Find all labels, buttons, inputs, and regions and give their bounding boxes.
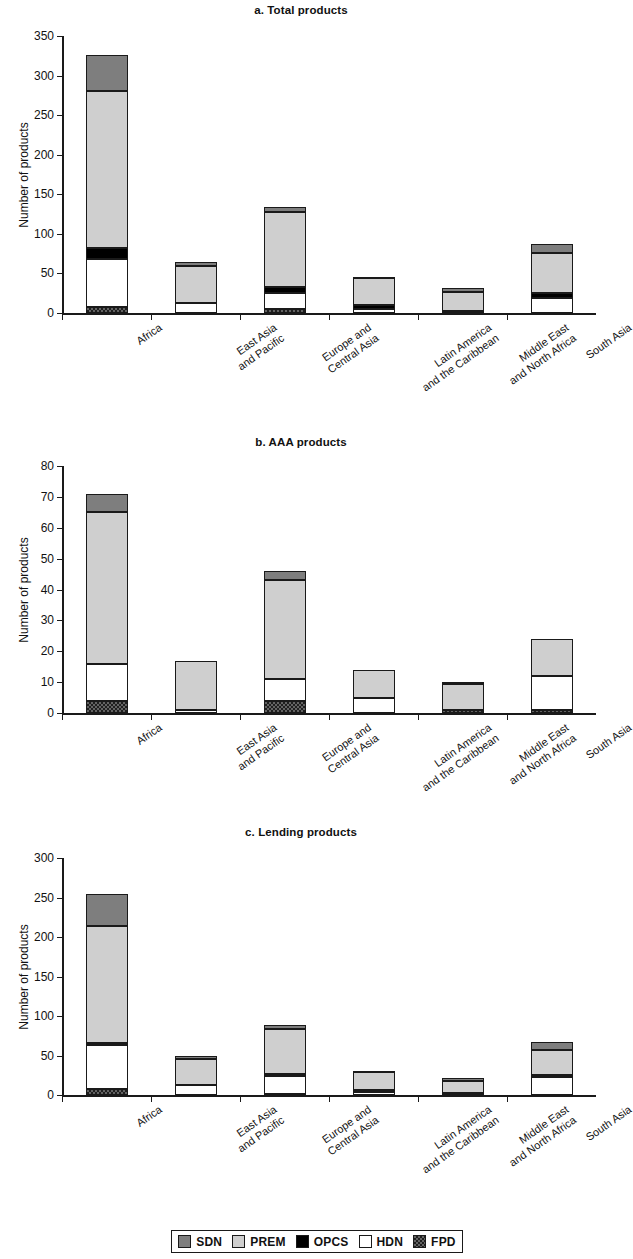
x-axis-label: Europe andCentral Asia bbox=[317, 721, 380, 775]
legend-item-hdn: HDN bbox=[359, 1235, 404, 1249]
bar-segment-hdn bbox=[86, 664, 128, 701]
x-axis-label-line: Africa bbox=[134, 721, 164, 747]
bar-segment-prem bbox=[531, 253, 573, 293]
bar-segment-fpd bbox=[442, 710, 484, 713]
y-tick-mark bbox=[57, 234, 62, 235]
x-axis-label: Latin Americaand the Caribbean bbox=[412, 1103, 500, 1175]
stacked-bar bbox=[531, 466, 573, 713]
bar-segment-fpd bbox=[264, 701, 306, 713]
y-tick-label: 0 bbox=[20, 306, 54, 320]
bar-segment-opcs bbox=[353, 1090, 395, 1092]
y-tick-label: 250 bbox=[20, 891, 54, 905]
bar-segment-sdn bbox=[531, 1042, 573, 1050]
x-tick-mark bbox=[329, 314, 330, 320]
bar-segment-sdn bbox=[86, 494, 128, 513]
x-axis-label: East Asiaand Pacific bbox=[227, 721, 285, 772]
bar-segment-opcs bbox=[531, 293, 573, 298]
x-axis-label: Latin Americaand the Caribbean bbox=[412, 721, 500, 793]
legend-swatch-fpd-icon bbox=[413, 1235, 426, 1248]
x-axis-label-line: Middle East bbox=[499, 321, 571, 376]
x-axis-label: Europe andCentral Asia bbox=[317, 1103, 380, 1157]
bar-segment-fpd bbox=[264, 309, 306, 313]
bar-segment-fpd bbox=[442, 312, 484, 314]
y-tick-label: 50 bbox=[20, 1049, 54, 1063]
bar-segment-opcs bbox=[264, 1074, 306, 1076]
bar-segment-prem bbox=[531, 639, 573, 676]
x-axis-line-b bbox=[62, 713, 596, 715]
bar-segment-opcs bbox=[86, 1043, 128, 1045]
x-axis-label-line: South Asia bbox=[583, 321, 633, 361]
x-axis-label: South Asia bbox=[583, 721, 633, 761]
stacked-bar bbox=[86, 858, 128, 1095]
bar-segment-hdn bbox=[353, 698, 395, 713]
stacked-bar bbox=[175, 36, 217, 313]
x-tick-mark bbox=[418, 314, 419, 320]
x-axis-label: Africa bbox=[134, 1103, 164, 1129]
legend-label: FPD bbox=[431, 1235, 456, 1249]
bar-segment-hdn bbox=[264, 1076, 306, 1094]
stacked-bar bbox=[86, 466, 128, 713]
y-tick-label: 40 bbox=[20, 583, 54, 597]
y-tick-mark bbox=[57, 273, 62, 274]
y-tick-mark bbox=[57, 559, 62, 560]
x-tick-mark bbox=[240, 714, 241, 720]
x-axis-label: Europe andCentral Asia bbox=[317, 321, 380, 375]
bar-segment-opcs bbox=[442, 1093, 484, 1095]
bar-segment-sdn bbox=[175, 262, 217, 266]
bar-segment-fpd bbox=[531, 710, 573, 713]
x-axis-label-line: and the Caribbean bbox=[419, 1113, 500, 1175]
bar-segment-hdn bbox=[264, 679, 306, 701]
bar-segment-sdn bbox=[442, 682, 484, 684]
x-axis-line-a bbox=[62, 313, 596, 315]
legend-label: OPCS bbox=[314, 1235, 349, 1249]
bar-segment-hdn bbox=[86, 1045, 128, 1089]
x-axis-label-line: Europe and bbox=[317, 721, 373, 765]
x-axis-label-line: and North Africa bbox=[506, 731, 578, 786]
stacked-bar bbox=[86, 36, 128, 313]
bar-segment-sdn bbox=[264, 571, 306, 580]
stacked-bar bbox=[175, 858, 217, 1095]
y-tick-label: 10 bbox=[20, 675, 54, 689]
y-tick-mark bbox=[57, 1016, 62, 1017]
x-tick-mark bbox=[151, 1096, 152, 1102]
stacked-bar bbox=[442, 36, 484, 313]
y-tick-label: 200 bbox=[20, 148, 54, 162]
y-tick-label: 70 bbox=[20, 490, 54, 504]
stacked-bar bbox=[353, 466, 395, 713]
y-tick-label: 60 bbox=[20, 521, 54, 535]
bar-segment-hdn bbox=[264, 293, 306, 309]
bar-segment-opcs bbox=[264, 287, 306, 293]
stacked-bar bbox=[175, 466, 217, 713]
bar-segment-prem bbox=[264, 1029, 306, 1075]
bar-segment-sdn bbox=[175, 1056, 217, 1058]
bar-segment-fpd bbox=[86, 307, 128, 313]
x-axis-label-line: Middle East bbox=[499, 1103, 571, 1158]
legend: SDNPREMOPCSHDNFPD bbox=[171, 1230, 463, 1253]
y-tick-mark bbox=[57, 36, 62, 37]
bar-segment-prem bbox=[175, 266, 217, 303]
x-axis-label: Latin Americaand the Caribbean bbox=[412, 321, 500, 393]
bar-segment-sdn bbox=[531, 244, 573, 253]
bar-segment-prem bbox=[353, 278, 395, 305]
bar-segment-fpd bbox=[86, 701, 128, 713]
y-tick-mark bbox=[57, 898, 62, 899]
x-axis-label-line: and North Africa bbox=[506, 1113, 578, 1168]
bar-segment-opcs bbox=[531, 1075, 573, 1077]
bar-segment-hdn bbox=[353, 1092, 395, 1095]
y-tick-mark bbox=[57, 1056, 62, 1057]
bar-segment-prem bbox=[353, 670, 395, 698]
x-axis-label-line: Latin America bbox=[412, 721, 493, 783]
bar-segment-sdn bbox=[264, 1025, 306, 1029]
x-axis-label-line: East Asia bbox=[227, 321, 278, 362]
y-tick-label: 200 bbox=[20, 930, 54, 944]
bar-segment-hdn bbox=[175, 710, 217, 713]
y-tick-label: 350 bbox=[20, 29, 54, 43]
y-tick-mark bbox=[57, 466, 62, 467]
bar-segment-prem bbox=[86, 91, 128, 248]
x-tick-mark bbox=[418, 1096, 419, 1102]
y-tick-label: 300 bbox=[20, 851, 54, 865]
bar-segment-sdn bbox=[353, 1071, 395, 1073]
